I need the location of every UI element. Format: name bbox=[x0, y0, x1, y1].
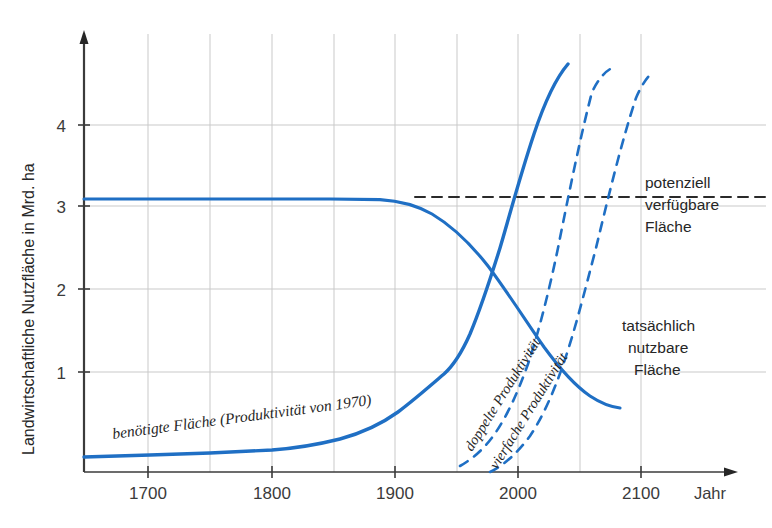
chart-background bbox=[0, 0, 772, 528]
annotation-tatsaechlich-line-3: Fläche bbox=[634, 361, 681, 378]
x-tick-label-1800: 1800 bbox=[253, 484, 291, 503]
x-tick-label-1900: 1900 bbox=[376, 484, 414, 503]
y-tick-label-4: 4 bbox=[57, 117, 66, 136]
annotation-potenziell-line-2: verfügbare bbox=[645, 196, 719, 213]
x-tick-label-1700: 1700 bbox=[129, 484, 167, 503]
y-tick-label-3: 3 bbox=[57, 198, 66, 217]
x-axis-title: Jahr bbox=[694, 484, 727, 502]
annotation-potenziell-line-3: Fläche bbox=[645, 218, 692, 235]
x-tick-label-2000: 2000 bbox=[499, 484, 537, 503]
x-tick-label-2100: 2100 bbox=[622, 484, 660, 503]
annotation-tatsaechlich-line-2: nutzbare bbox=[628, 339, 688, 356]
y-tick-label-2: 2 bbox=[57, 281, 66, 300]
annotation-potenziell-line-1: potenziell bbox=[645, 174, 711, 191]
chart-svg: 4 3 2 1 1700 1800 1900 2000 2100 Jahr La… bbox=[0, 0, 772, 528]
annotation-tatsaechlich-line-1: tatsächlich bbox=[622, 317, 695, 334]
y-tick-label-1: 1 bbox=[57, 364, 66, 383]
y-axis-title: Landwirtschaftliche Nutzfläche in Mrd. h… bbox=[20, 163, 37, 455]
chart-figure: 4 3 2 1 1700 1800 1900 2000 2100 Jahr La… bbox=[0, 0, 772, 528]
